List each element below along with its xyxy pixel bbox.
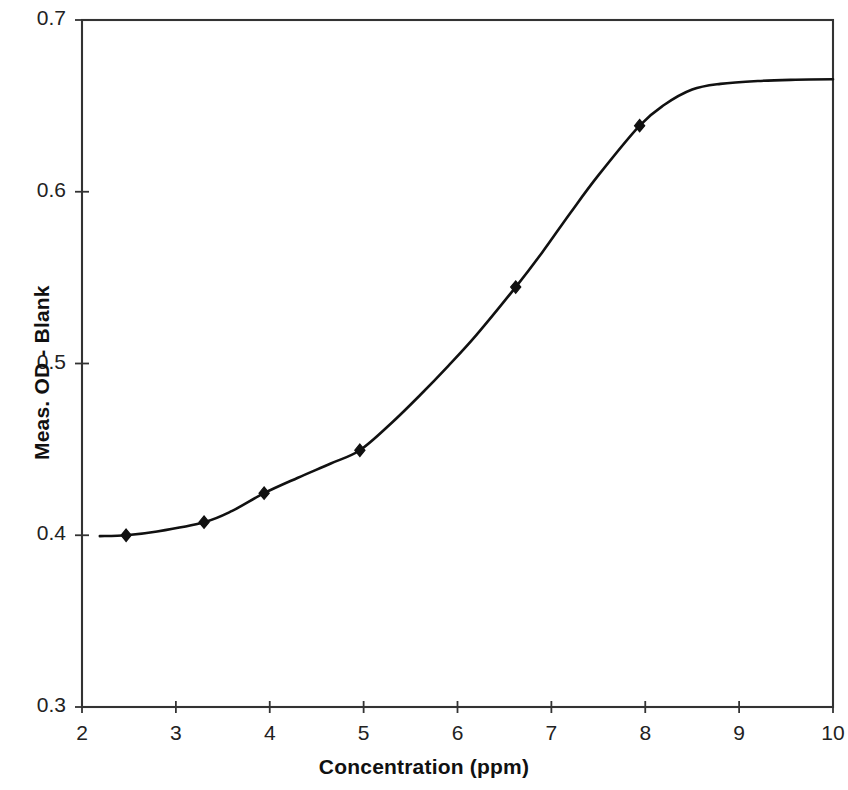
x-tick-label: 10 <box>793 721 848 745</box>
x-tick-label: 4 <box>230 721 310 745</box>
y-tick-label: 0.7 <box>4 6 66 30</box>
x-tick-label: 2 <box>42 721 122 745</box>
axis-frame <box>82 20 833 707</box>
y-axis-title: Meas. OD - Blank <box>30 285 54 460</box>
data-series-markers <box>121 119 645 541</box>
y-tick-label: 0.3 <box>4 693 66 717</box>
y-tick-label: 0.4 <box>4 521 66 545</box>
y-tick-label: 0.6 <box>4 178 66 202</box>
x-tick-label: 3 <box>136 721 216 745</box>
chart-plot-area <box>0 0 848 790</box>
chart-container: 23456789100.30.40.50.60.7 Meas. OD - Bla… <box>0 0 848 790</box>
x-tick-label: 6 <box>418 721 498 745</box>
x-tick-label: 9 <box>699 721 779 745</box>
x-axis-title: Concentration (ppm) <box>0 755 848 779</box>
data-series-lines <box>100 79 833 536</box>
x-tick-label: 5 <box>324 721 404 745</box>
x-tick-label: 8 <box>605 721 685 745</box>
x-tick-label: 7 <box>511 721 591 745</box>
